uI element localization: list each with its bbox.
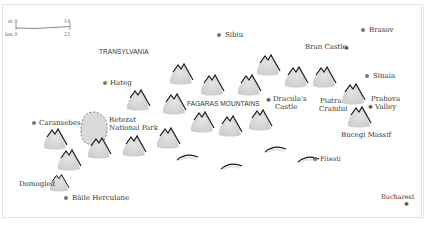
mountain-icon: [339, 81, 367, 105]
town-dot-baile-herculane: [64, 196, 68, 200]
ridge-icon: [263, 145, 287, 153]
ridge-icon: [175, 153, 199, 161]
sight-label-prahova-2: Valley: [375, 103, 396, 111]
town-label-caransebes: Caransebes: [39, 119, 81, 127]
peak-label-bucegi: Bucegi Massif: [341, 131, 391, 139]
sight-label-prahova-1: Prahova: [371, 95, 400, 103]
mountain-icon: [167, 61, 195, 85]
region-label-transylvania: TRANSYLVANIA: [99, 48, 149, 56]
mountain-icon: [282, 64, 310, 88]
sight-label-bucharest: Bucharest: [381, 193, 415, 201]
sight-star-icon: ✱: [344, 45, 349, 51]
park-label-line1: Retezat: [109, 116, 136, 124]
mountain-icon: [198, 72, 226, 96]
ridge-icon: [219, 162, 243, 170]
peak-label-piatra-2: Craiului: [319, 105, 348, 113]
mountain-icon: [310, 64, 338, 88]
town-dot-brasov: [361, 28, 365, 32]
sight-star-icon: ✱: [404, 201, 409, 207]
scale-km-label: km 0: [5, 30, 18, 38]
town-dot-pitesti: [313, 157, 317, 161]
mountain-icon: [188, 109, 216, 133]
town-dot-caransebes: [32, 121, 36, 125]
peak-label-piatra-1: Piatra: [320, 97, 341, 105]
sight-star-icon: ✱: [266, 97, 271, 103]
town-label-baile-herculane: Băile Herculane: [72, 194, 129, 202]
park-label-line2: National Park: [109, 124, 158, 132]
town-label-hateg: Hateg: [110, 79, 132, 87]
mountain-icon: [124, 87, 152, 111]
mountain-icon: [55, 147, 83, 171]
town-label-pitesti: Pitesti: [320, 155, 341, 163]
scale-bar: m 0 14 km 0 21: [5, 17, 75, 41]
peak-label-domogled: Domogled: [19, 180, 55, 188]
town-label-brasov: Brasov: [369, 26, 393, 34]
sight-label-draculas-castle-1: Dracula's: [273, 95, 307, 103]
town-dot-sibiu: [217, 33, 221, 37]
mountain-icon: [154, 125, 182, 149]
sight-label-bran-castle: Bran Castle: [305, 43, 347, 51]
scale-line-icon: [15, 23, 71, 31]
map-edge-shadow: [423, 4, 424, 219]
town-label-sibiu: Sibiu: [225, 31, 243, 39]
town-dot-sinaia: [365, 74, 369, 78]
sight-label-draculas-castle-2: Castle: [275, 103, 297, 111]
mountain-icon: [85, 135, 113, 159]
mountain-icon: [120, 133, 148, 157]
town-dot-hateg: [103, 81, 107, 85]
mountain-icon: [235, 72, 263, 96]
mountain-icon: [216, 113, 244, 137]
mountain-icon: [160, 91, 188, 115]
sight-star-icon: ✱: [368, 104, 373, 110]
town-label-sinaia: Sinaia: [373, 72, 395, 80]
scale-km-max: 21: [64, 30, 70, 38]
mountain-icon: [246, 107, 274, 131]
